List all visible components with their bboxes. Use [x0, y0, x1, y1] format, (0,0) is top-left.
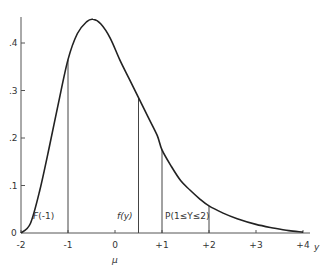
y-tick-label: .4 [9, 38, 18, 48]
reference-lines [68, 60, 209, 233]
y-tick-label: 0 [11, 228, 17, 238]
y-tick-label: .1 [9, 181, 18, 191]
x-tick-label: +1 [155, 240, 168, 250]
x-axis-label: y [313, 242, 320, 252]
density-chart: 0.1.2.3.4-2-10+1+2+3+4 F(-1) f(y) P(1≤Y≤… [0, 0, 333, 274]
annotation-f-y: f(y) [117, 211, 133, 221]
y-tick-label: .2 [9, 133, 18, 143]
mu-label: μ [111, 255, 118, 265]
y-tick-label: .3 [9, 86, 18, 96]
annotation-F-minus-1: F(-1) [33, 211, 54, 221]
annotation-probability: P(1≤Y≤2) [165, 211, 209, 221]
x-tick-label: +3 [249, 240, 262, 250]
x-tick-label: +2 [202, 240, 215, 250]
axes [21, 17, 310, 233]
x-tick-label: +4 [296, 240, 310, 250]
x-tick-label: -1 [64, 240, 73, 250]
x-tick-label: 0 [112, 240, 118, 250]
x-tick-label: -2 [17, 240, 26, 250]
